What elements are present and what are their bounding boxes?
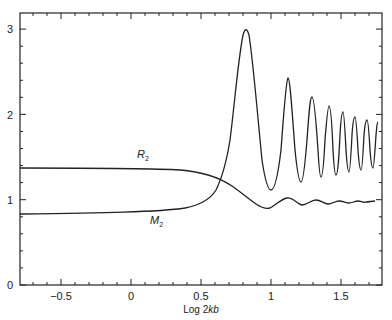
label-m2: M2 (150, 214, 163, 228)
x-axis-title: Log 2kb (183, 304, 219, 315)
curve-r2 (20, 168, 375, 208)
y-axis-ticks-left (20, 29, 26, 285)
x-tick-label-0: 0 (128, 290, 134, 302)
y-tick-label-2: 2 (7, 109, 13, 121)
y-axis-ticks-right (376, 29, 382, 285)
chart-figure: 0 1 2 3 −0.5 0 0.5 1 1.5 Log 2kb R2 M2 (0, 0, 392, 320)
y-tick-label-1: 1 (7, 194, 13, 206)
x-tick-label-neg0.5: −0.5 (50, 290, 72, 302)
x-tick-label-1.5: 1.5 (333, 290, 348, 302)
x-axis-ticks-top (33, 13, 369, 19)
y-tick-label-3: 3 (7, 23, 13, 35)
x-tick-label-0.5: 0.5 (193, 290, 208, 302)
x-tick-label-1: 1 (268, 290, 274, 302)
y-tick-label-0: 0 (7, 279, 13, 291)
plot-frame (20, 13, 382, 285)
label-r2: R2 (137, 148, 149, 162)
curve-m2 (20, 30, 378, 214)
x-axis-ticks-bottom (33, 279, 369, 285)
